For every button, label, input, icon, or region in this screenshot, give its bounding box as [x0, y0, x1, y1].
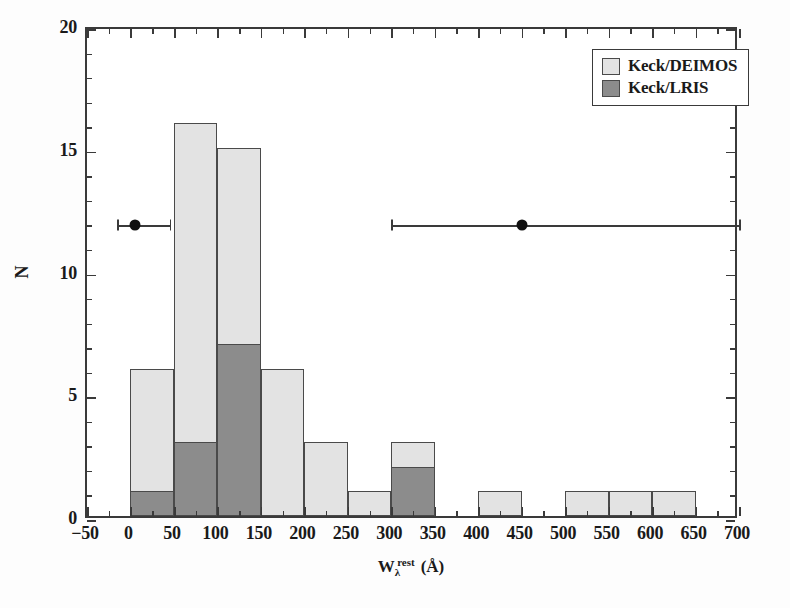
legend-entry: Keck/DEIMOS — [602, 55, 737, 77]
y-axis-tick — [87, 201, 92, 202]
x-tick-label: 550 — [594, 523, 620, 544]
y-axis-tick — [87, 250, 92, 251]
x-axis-tick — [152, 511, 153, 516]
y-axis-tick-right — [730, 348, 735, 349]
x-axis-title: Wλrest(Å) — [378, 556, 445, 578]
x-tick-label: 200 — [289, 523, 315, 544]
y-axis-tick-right — [730, 127, 735, 128]
x-axis-tick-top — [500, 29, 501, 34]
x-axis-tick-top — [283, 29, 284, 34]
histogram-bar-subset — [174, 442, 217, 516]
x-axis-tick-top — [587, 29, 588, 34]
x-axis-tick-top — [217, 29, 219, 38]
x-axis-tick — [565, 507, 567, 516]
x-axis-tick-top — [456, 29, 457, 34]
error-bar-cap — [117, 220, 119, 231]
y-axis-tick-right — [730, 201, 735, 202]
x-axis-tick-top — [543, 29, 544, 34]
y-tick-label: 15 — [60, 139, 77, 160]
x-axis-tick — [717, 511, 718, 516]
x-axis-tick — [413, 511, 414, 516]
x-axis-tick — [696, 507, 698, 516]
x-axis-tick — [674, 511, 675, 516]
x-axis-tick — [87, 507, 89, 516]
y-axis-tick-right — [726, 152, 735, 154]
error-bar-line — [391, 225, 739, 227]
error-bar-point — [516, 220, 527, 231]
x-tick-label: 150 — [246, 523, 272, 544]
x-axis-tick-top — [391, 29, 393, 38]
y-axis-tick — [87, 446, 92, 447]
x-tick-label: 100 — [202, 523, 228, 544]
y-axis-tick — [87, 299, 92, 300]
x-axis-tick — [435, 507, 437, 516]
y-axis-tick — [87, 495, 92, 496]
x-axis-tick-top — [109, 29, 110, 34]
x-axis-tick-top — [609, 29, 611, 38]
x-tick-label: 300 — [376, 523, 402, 544]
x-axis-tick-top — [348, 29, 350, 38]
x-axis-tick-top — [370, 29, 371, 34]
x-tick-label: 400 — [463, 523, 489, 544]
x-axis-tick-top — [522, 29, 524, 38]
x-axis-tick-top — [413, 29, 414, 34]
y-tick-label: 10 — [60, 262, 77, 283]
x-axis-tick-top — [630, 29, 631, 34]
y-axis-tick — [87, 397, 96, 399]
x-axis-tick — [652, 507, 654, 516]
x-axis-tick — [109, 511, 110, 516]
x-axis-title-base: W — [378, 557, 395, 576]
x-axis-tick — [130, 507, 132, 516]
x-axis-tick — [261, 507, 263, 516]
y-axis-tick-right — [730, 324, 735, 325]
y-axis-tick-right — [730, 176, 735, 177]
error-bar-point — [129, 220, 140, 231]
y-axis-tick — [87, 29, 96, 31]
y-axis-tick — [87, 78, 92, 79]
legend-swatch-deimos — [602, 58, 620, 75]
y-axis-tick — [87, 520, 96, 522]
x-axis-tick — [587, 511, 588, 516]
x-tick-label: 600 — [637, 523, 663, 544]
y-axis-tick — [87, 103, 92, 104]
y-axis-tick-right — [730, 422, 735, 423]
y-axis-tick-right — [726, 275, 735, 277]
x-axis-tick — [217, 507, 219, 516]
x-axis-tick — [391, 507, 393, 516]
x-tick-label: 0 — [124, 523, 133, 544]
error-bar-cap — [739, 220, 741, 231]
histogram-bar-total — [261, 369, 304, 516]
x-axis-tick-top — [261, 29, 263, 38]
y-axis-tick — [87, 422, 92, 423]
y-axis-tick-right — [726, 520, 735, 522]
x-axis-tick-top — [196, 29, 197, 34]
y-axis-tick-right — [730, 299, 735, 300]
error-bar-cap — [391, 220, 393, 231]
x-axis-tick-top — [152, 29, 153, 34]
x-axis-tick-top — [652, 29, 654, 38]
x-axis-tick-top — [565, 29, 567, 38]
x-axis-tick-top — [739, 29, 741, 38]
y-axis-tick-right — [726, 397, 735, 399]
x-axis-tick — [478, 507, 480, 516]
y-axis-tick — [87, 176, 92, 177]
x-axis-title-superscript: rest — [397, 556, 415, 568]
x-axis-tick — [630, 511, 631, 516]
histogram-bar-subset — [217, 344, 260, 516]
x-axis-tick — [543, 511, 544, 516]
histogram-bar-subset — [391, 467, 434, 516]
y-axis-tick-right — [730, 495, 735, 496]
y-axis-tick — [87, 127, 92, 128]
histogram-figure: N Wλrest(Å) Keck/DEIMOS Keck/LRIS −50050… — [0, 0, 790, 608]
y-axis-tick — [87, 275, 96, 277]
x-tick-label: 500 — [550, 523, 576, 544]
y-axis-title: N — [12, 266, 33, 279]
x-tick-label: 700 — [724, 523, 750, 544]
y-axis-tick — [87, 324, 92, 325]
histogram-bar-total — [304, 442, 347, 516]
x-axis-tick — [239, 511, 240, 516]
x-axis-tick — [326, 511, 327, 516]
x-axis-tick-top — [717, 29, 718, 34]
y-axis-tick-right — [726, 29, 735, 31]
y-tick-label: 5 — [68, 385, 77, 406]
